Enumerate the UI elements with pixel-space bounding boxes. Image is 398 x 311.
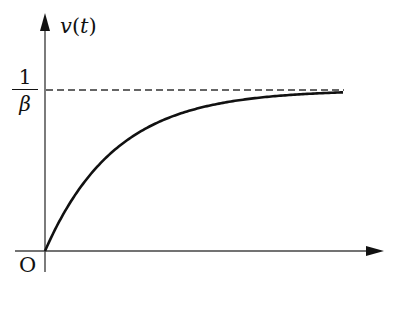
fraction-numerator: 1 [12,66,38,88]
origin-label: O [19,253,36,277]
fraction-bar [12,89,38,90]
y-axis-arrow-icon [40,13,50,31]
fraction-denominator: β [12,92,38,116]
velocity-curve [45,92,343,251]
asymptote-label: 1 β [12,66,38,116]
x-axis-arrow-icon [366,246,384,256]
y-axis-label: v(t) [60,14,97,38]
diagram-canvas [0,0,398,311]
